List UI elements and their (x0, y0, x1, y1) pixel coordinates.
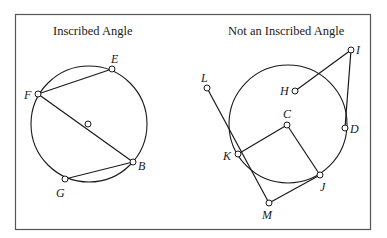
point-label-m: M (261, 208, 273, 222)
point-h (292, 88, 298, 94)
point-label-e: E (110, 52, 119, 66)
point-c (284, 122, 290, 128)
point-label-l: L (200, 71, 208, 85)
point-m (266, 200, 272, 206)
point-k (235, 151, 241, 157)
point-g (62, 176, 68, 182)
inscribed-angle-figure: Inscribed Angle EFBG Not an Inscribed An… (0, 0, 387, 238)
point-label-h: H (279, 84, 290, 98)
point-label-k: K (222, 149, 232, 163)
point-label-f: F (23, 88, 32, 102)
point-f (35, 91, 41, 97)
point-label-g: G (56, 186, 65, 200)
point-e (109, 66, 115, 72)
panel-title-not-inscribed: Not an Inscribed Angle (228, 24, 345, 38)
circle-center-point (85, 121, 91, 127)
panel-title-inscribed: Inscribed Angle (53, 24, 133, 38)
figure-frame (16, 15, 371, 230)
point-l (204, 85, 210, 91)
point-label-d: D (349, 122, 359, 136)
point-i (348, 47, 354, 53)
figure-canvas: Inscribed Angle EFBG Not an Inscribed An… (0, 0, 387, 238)
point-j (317, 172, 323, 178)
point-label-j: J (320, 180, 326, 194)
point-b (130, 159, 136, 165)
point-d (342, 125, 348, 131)
point-label-c: C (283, 107, 292, 121)
point-label-b: B (138, 159, 146, 173)
